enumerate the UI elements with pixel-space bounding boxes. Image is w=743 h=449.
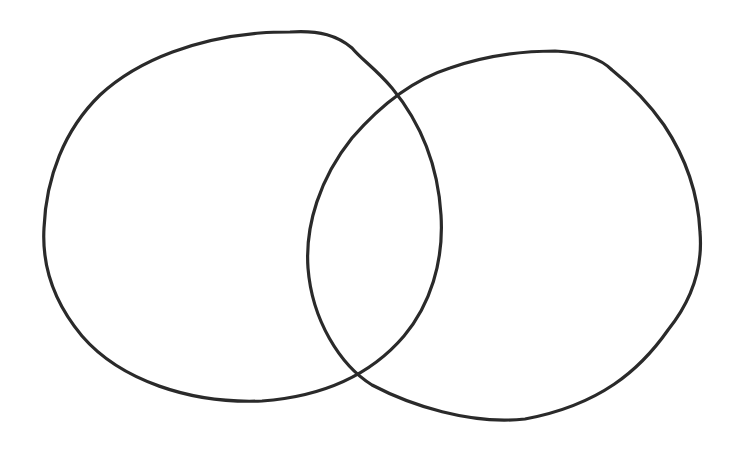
venn-diagram <box>0 0 743 449</box>
venn-diagram-canvas <box>0 0 743 449</box>
left-set-outline <box>44 32 442 402</box>
right-set-outline <box>308 51 701 420</box>
